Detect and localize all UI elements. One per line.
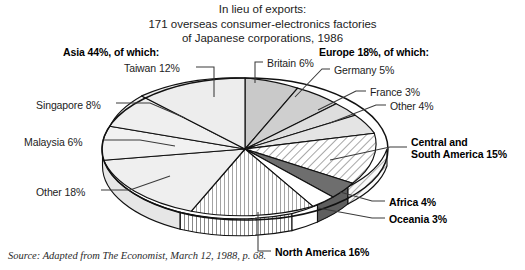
label-africa: Africa 4% <box>389 196 436 208</box>
label-other-asia: Other 18% <box>36 186 85 198</box>
source-citation: Source: Adapted from The Economist, Marc… <box>8 250 266 261</box>
label-singapore: Singapore 8% <box>36 99 101 111</box>
label-csa-line-2: South America 15% <box>411 148 507 160</box>
label-germany: Germany 5% <box>334 64 394 76</box>
label-oceania: Oceania 3% <box>389 213 447 225</box>
label-other-europe: Other 4% <box>390 100 434 112</box>
label-north-america: North America 16% <box>275 246 369 258</box>
chart-figure: In lieu of exports: 171 overseas consume… <box>0 0 525 270</box>
label-taiwan: Taiwan 12% <box>124 62 180 74</box>
label-malaysia: Malaysia 6% <box>24 136 82 148</box>
label-csa-line-1: Central and <box>411 136 468 148</box>
label-britain: Britain 6% <box>267 57 314 69</box>
label-central-south-america: Central and South America 15% <box>411 136 507 161</box>
pie-chart-graphic <box>0 0 525 270</box>
label-france: France 3% <box>370 86 420 98</box>
